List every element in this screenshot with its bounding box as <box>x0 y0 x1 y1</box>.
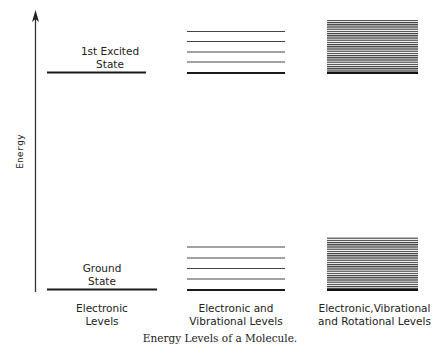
vibrational-levels-title: Electronic and Vibrational Levels <box>176 302 296 328</box>
vibrational-levels-column <box>187 32 285 291</box>
electronic-levels-column <box>47 73 157 290</box>
rotational-levels-title: Electronic,Vibrational and Rotational Le… <box>307 302 442 328</box>
electronic-levels-title: Electronic Levels <box>52 302 152 328</box>
energy-axis-label: Energy <box>14 127 25 177</box>
excited-state-label: 1st Excited State <box>60 45 160 71</box>
figure-caption: Energy Levels of a Molecule. <box>120 332 320 344</box>
ground-state-label: Ground State <box>52 262 152 288</box>
energy-axis-arrow <box>32 10 39 292</box>
rotational-levels-column <box>327 20 418 290</box>
energy-level-diagram: Energy 1st Excited State Ground State El… <box>0 0 447 357</box>
